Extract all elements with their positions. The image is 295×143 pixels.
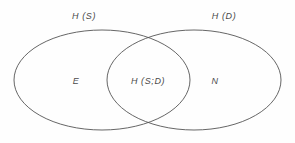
right-only-region-label: N (211, 76, 218, 86)
right-set-title-label: H (D) (212, 11, 237, 21)
venn-diagram-figure: H (S) H (D) E H (S;D) N (0, 0, 295, 143)
venn-diagram-canvas (0, 0, 295, 143)
left-set-title-label: H (S) (72, 11, 96, 21)
intersection-region-label: H (S;D) (131, 76, 165, 86)
left-only-region-label: E (73, 76, 80, 86)
